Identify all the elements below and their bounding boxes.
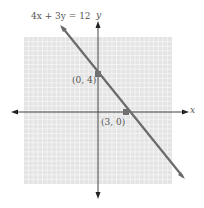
x-axis-left-arrow-icon (11, 110, 18, 115)
x-axis-right-arrow-icon (182, 110, 189, 115)
x-intercept-label: (3, 0) (101, 117, 125, 127)
coordinate-plane (0, 0, 204, 208)
y-intercept-label: (0, 4) (72, 75, 96, 85)
equation-label: 4x + 3y = 12 (31, 11, 91, 21)
y-axis-down-arrow-icon (96, 192, 101, 199)
y-axis-label: y (96, 10, 101, 20)
point-x-intercept (123, 109, 129, 115)
x-axis-label: x (190, 105, 195, 115)
y-axis-up-arrow-icon (96, 21, 101, 28)
